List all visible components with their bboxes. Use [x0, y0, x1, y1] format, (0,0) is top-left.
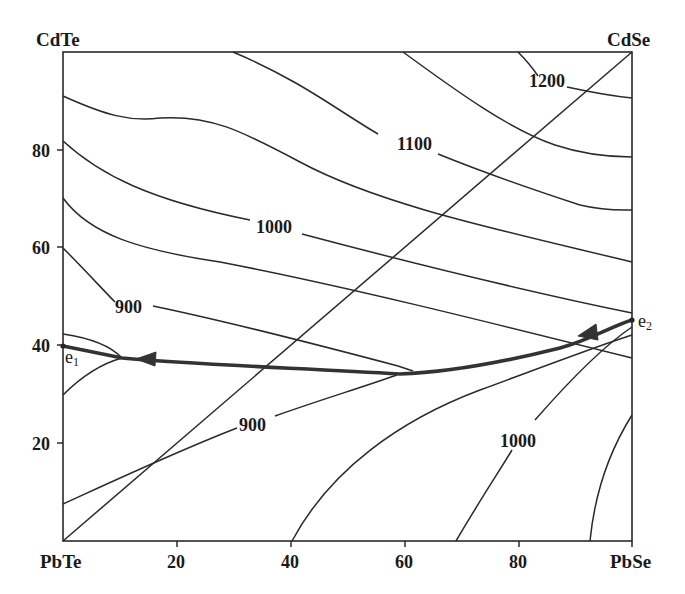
y-tick-80: 80 — [32, 141, 50, 161]
x-tick-40: 40 — [281, 552, 299, 572]
monovariant-curve — [60, 317, 634, 374]
x-tick-80: 80 — [509, 552, 527, 572]
isotherm-label-1200: 1200 — [529, 71, 565, 91]
isotherm-label-1100: 1100 — [397, 134, 432, 154]
corner-label-cdse: CdSe — [607, 29, 650, 50]
isotherm-label-1000-lower: 1000 — [500, 431, 536, 451]
corner-label-pbse: PbSe — [610, 551, 651, 572]
y-tick-60: 60 — [32, 238, 50, 258]
arrow-toward-lower-x — [578, 324, 598, 340]
y-tick-40: 40 — [32, 336, 50, 356]
isotherm-lines-upper — [63, 52, 632, 395]
corner-label-cdte: CdTe — [36, 29, 80, 50]
isotherm-label-900-upper: 900 — [115, 297, 142, 317]
x-tick-60: 60 — [395, 552, 413, 572]
eutectic-label-e2: e2 — [638, 311, 652, 333]
isotherm-label-1000-upper: 1000 — [256, 217, 292, 237]
arrow-toward-e1 — [136, 352, 156, 366]
isotherm-label-900-lower: 900 — [239, 415, 266, 435]
corner-label-pbte: PbTe — [40, 551, 82, 572]
phase-diagram: CdTe CdSe PbTe PbSe 80 60 40 20 20 40 60… — [0, 0, 685, 594]
diagonal-pbte-cdse — [63, 52, 632, 541]
x-tick-20: 20 — [167, 552, 185, 572]
y-tick-20: 20 — [32, 434, 50, 454]
axis-ticks — [57, 150, 632, 547]
